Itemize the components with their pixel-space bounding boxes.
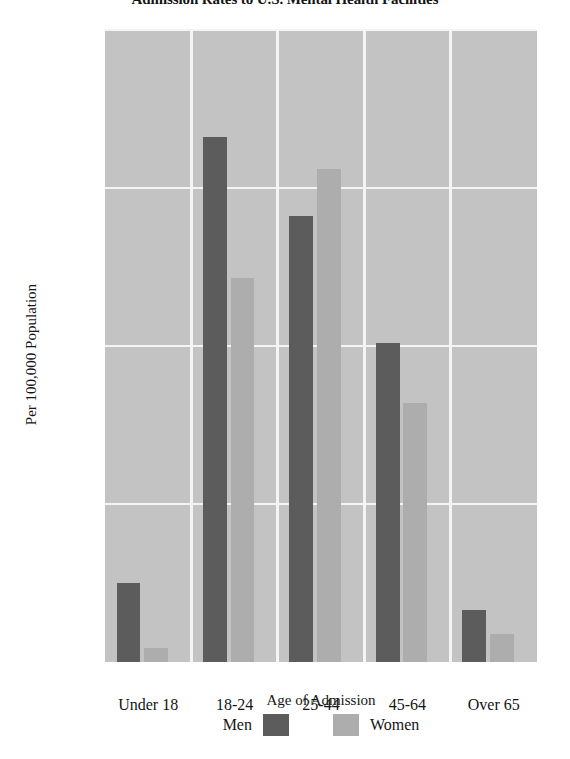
bar-group: [191, 30, 277, 662]
bar-men-18-24: [203, 137, 227, 662]
legend-swatch-men: [263, 714, 289, 736]
chart-legend: MenWomen: [105, 714, 537, 736]
y-axis-title: Per 100,000 Population: [23, 245, 40, 465]
bar-men-45-64: [376, 343, 400, 662]
bar-group: [105, 30, 191, 662]
plot-area: 5001,0001,5002,0002,500Under 1818-2425-4…: [105, 30, 537, 662]
chart-figure: Admission Rates to U.S. Mental Health Fa…: [0, 0, 570, 759]
bar-women-under-18: [144, 648, 168, 662]
legend-entry-men: Men: [223, 714, 289, 736]
bar-group: [451, 30, 537, 662]
bar-men-25-44: [289, 216, 313, 662]
legend-swatch-women: [333, 714, 359, 736]
legend-label: Men: [223, 716, 252, 734]
bar-women-25-44: [317, 169, 341, 662]
legend-label: Women: [370, 716, 419, 734]
bar-women-45-64: [403, 403, 427, 662]
bar-group: [278, 30, 364, 662]
legend-entry-women: Women: [333, 714, 419, 736]
x-axis-title: Age of Admission: [105, 692, 537, 709]
bar-women-18-24: [231, 278, 255, 662]
bar-women-over-65: [490, 634, 514, 662]
bar-men-under-18: [117, 583, 141, 662]
chart-title: Admission Rates to U.S. Mental Health Fa…: [0, 0, 570, 8]
bar-group: [364, 30, 450, 662]
bar-men-over-65: [462, 610, 486, 662]
